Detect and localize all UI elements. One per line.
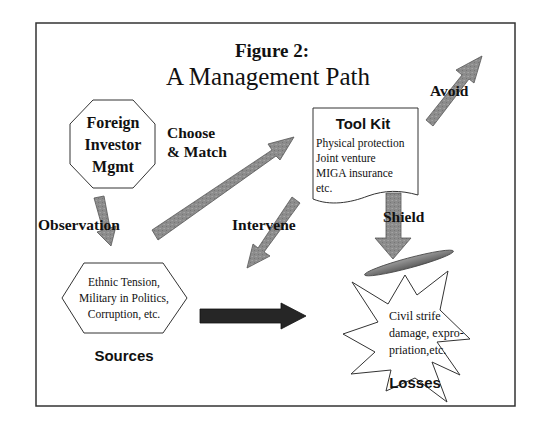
avoid-label: Avoid <box>430 82 469 99</box>
losses-caption: Losses <box>389 374 441 391</box>
losses-line-2: damage, expro- <box>389 326 464 340</box>
investor-line-3: Mgmt <box>92 158 134 176</box>
sources-caption: Sources <box>94 347 153 364</box>
sources-line-2: Military in Politics, <box>79 292 169 305</box>
investor-line-2: Investor <box>85 136 142 153</box>
toolkit-item-1: Physical protection <box>316 137 405 150</box>
investor-node: Foreign Investor Mgmt <box>70 100 155 188</box>
toolkit-item-4: etc. <box>316 182 332 194</box>
toolkit-item-2: Joint venture <box>316 152 376 164</box>
choose-match-label-2: & Match <box>167 143 227 160</box>
choose-match-label-1: Choose <box>167 124 215 141</box>
toolkit-node: Tool Kit Physical protection Joint ventu… <box>313 108 418 203</box>
observation-label: Observation <box>38 216 120 233</box>
sources-line-3: Corruption, etc. <box>88 308 161 321</box>
losses-line-1: Civil strife <box>389 309 441 323</box>
sources-line-1: Ethnic Tension, <box>88 276 160 289</box>
losses-line-3: priation,etc. <box>389 343 446 357</box>
figure-label: Figure 2: <box>235 40 309 61</box>
shield-label: Shield <box>383 208 425 225</box>
management-path-diagram: Figure 2: A Management Path Foreign Inve… <box>0 0 545 428</box>
toolkit-heading: Tool Kit <box>336 115 391 132</box>
toolkit-item-3: MIGA insurance <box>316 167 393 179</box>
intervene-label: Intervene <box>232 216 296 233</box>
figure-title: A Management Path <box>166 63 371 90</box>
sources-node: Ethnic Tension, Military in Politics, Co… <box>62 263 187 333</box>
investor-line-1: Foreign <box>86 114 139 132</box>
